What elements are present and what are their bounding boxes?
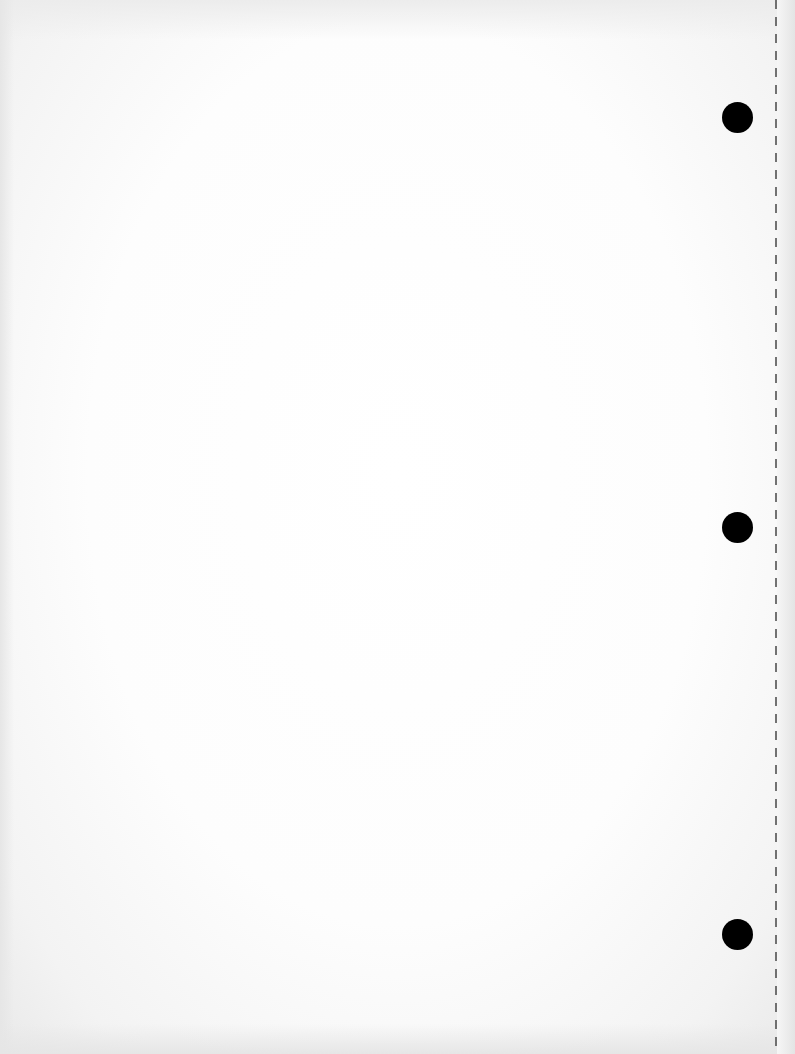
- left-edge-shadow: [0, 0, 14, 1054]
- perforation-line: [775, 0, 777, 1054]
- bottom-edge-shadow: [0, 1024, 795, 1054]
- scanned-page: [0, 0, 795, 1054]
- binder-strip: [777, 0, 795, 1054]
- punch-hole-middle: [722, 512, 753, 543]
- punch-hole-top: [722, 102, 753, 133]
- punch-hole-bottom: [722, 919, 753, 950]
- top-edge-shadow: [0, 0, 795, 40]
